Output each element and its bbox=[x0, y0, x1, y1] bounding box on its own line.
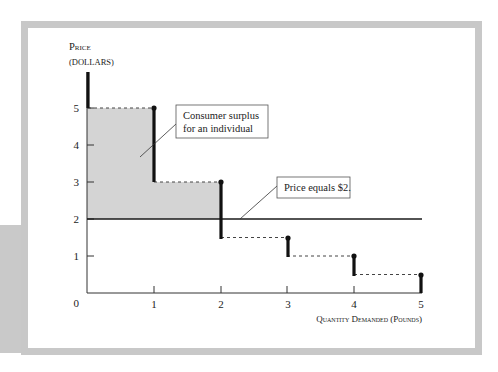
surplus-callout-line1: Consumer surplus bbox=[183, 110, 259, 121]
x-tick-label-3: 3 bbox=[285, 298, 291, 310]
x-tick-label-2: 2 bbox=[218, 298, 224, 310]
surplus-callout-line2: for an individual bbox=[183, 123, 253, 134]
x-tick-label-4: 4 bbox=[351, 298, 357, 310]
x-tick-label-5: 5 bbox=[418, 298, 424, 310]
y-tick-label-3: 3 bbox=[74, 176, 80, 188]
chart: Consumer surplus for an individual Price… bbox=[0, 0, 498, 372]
y-tick-label-2: 2 bbox=[74, 213, 80, 225]
x-axis-title: Quantity demanded (pounds) bbox=[316, 314, 422, 324]
x-ticks bbox=[154, 286, 354, 293]
y-tick-label-5: 5 bbox=[74, 102, 80, 114]
origin-label: 0 bbox=[74, 297, 80, 309]
y-axis-subtitle: (dollars) bbox=[69, 57, 114, 67]
y-tick-label-1: 1 bbox=[74, 250, 80, 262]
x-tick-label-1: 1 bbox=[151, 298, 157, 310]
price-leader-line bbox=[240, 186, 277, 219]
y-tick-label-4: 4 bbox=[74, 139, 80, 151]
y-axis-title: Price bbox=[69, 41, 91, 52]
price-callout-text: Price equals $2. bbox=[284, 182, 351, 193]
